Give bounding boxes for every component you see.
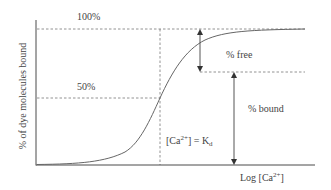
y-axis-label: % of dye molecules bound (17, 43, 28, 150)
binding-curve-diagram: 100% 50% % free % bound [Ca2+] = Kd Log … (0, 0, 331, 190)
label-pct-bound: % bound (248, 103, 284, 114)
label-pct-free: % free (226, 49, 253, 60)
label-kd: [Ca2+] = Kd (166, 134, 213, 148)
x-axis-label: Log [Ca2+] (240, 171, 284, 183)
label-100-percent: 100% (77, 11, 100, 22)
label-50-percent: 50% (77, 81, 95, 92)
